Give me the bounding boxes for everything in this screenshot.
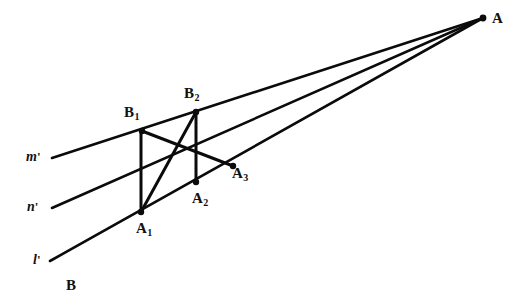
label-point-a1-sub: 1 [147,227,152,238]
label-point-b2-sub: 2 [195,92,200,103]
label-point-a1: A1 [136,221,152,236]
label-ray-n-text: n [27,199,35,214]
label-point-a2: A2 [192,191,208,206]
ray-n-prime [52,18,483,208]
label-ray-m-text: m [26,149,37,164]
label-ray-l-prime: l' [33,253,41,267]
vertex-dot-b1 [139,128,145,134]
vertex-dot-a [480,15,487,22]
figure-canvas [0,0,513,306]
label-point-b-text: B [66,277,76,293]
label-point-a2-text: A [192,190,203,206]
label-point-a3-sub: 3 [243,172,248,183]
vertex-dot-b2 [193,109,199,115]
label-ray-l-prime-mark: ' [37,252,41,267]
label-point-b1-sub: 1 [135,111,140,122]
label-ray-n-prime: n' [27,200,38,214]
label-point-b: B [66,278,76,293]
segment-b1-a3 [142,131,233,166]
label-ray-m-prime-mark: ' [37,149,41,164]
vertex-dot-a2 [193,179,199,185]
label-point-b1-text: B [124,104,134,120]
ray-m-prime [52,18,483,158]
label-point-a-text: A [492,10,503,26]
vertex-dot-a1 [138,209,144,215]
label-point-a3-text: A [232,165,243,181]
ray-l-prime [50,18,483,261]
label-point-a1-text: A [136,220,147,236]
label-point-b2: B2 [184,86,199,101]
label-point-b2-text: B [184,85,194,101]
label-ray-m-prime: m' [26,150,41,164]
geometry-figure: A B B1 B2 A1 A2 A3 m' n' l' [0,0,513,306]
label-point-a2-sub: 2 [203,197,208,208]
label-ray-n-prime-mark: ' [35,199,39,214]
label-point-a3: A3 [232,166,248,181]
label-point-b1: B1 [124,105,139,120]
label-point-a: A [492,11,503,26]
